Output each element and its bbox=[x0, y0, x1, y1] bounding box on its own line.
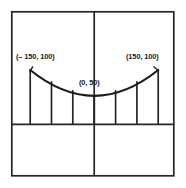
diagram-frame bbox=[12, 12, 174, 176]
label-right-anchor-point: (150, 100) bbox=[126, 53, 159, 60]
left-label-leader bbox=[31, 67, 33, 71]
label-vertex-point: (0, 50) bbox=[79, 79, 100, 86]
figure-container: (– 150, 100) (0, 50) (150, 100) bbox=[0, 0, 186, 188]
label-left-anchor-point: (– 150, 100) bbox=[16, 53, 55, 60]
right-label-leader bbox=[154, 67, 158, 71]
parabolic-cable-diagram bbox=[0, 0, 186, 188]
